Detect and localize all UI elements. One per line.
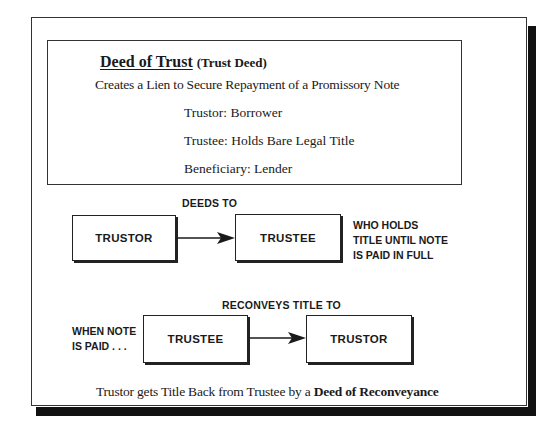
node-trustee-row2: TRUSTEE	[143, 315, 248, 363]
edge-label-reconveys-title-to: RECONVEYS TITLE TO	[222, 299, 341, 311]
arrow-right-icon	[177, 231, 235, 245]
note-when-note-is-paid: WHEN NOTE IS PAID . . .	[72, 324, 136, 354]
note-who-holds-title: WHO HOLDS TITLE UNTIL NOTE IS PAID IN FU…	[353, 218, 448, 263]
note-line: WHEN NOTE	[72, 324, 136, 339]
footer-emphasis: Deed of Reconveyance	[314, 384, 439, 399]
node-trustor-row2: TRUSTOR	[306, 315, 412, 363]
arrow-right-icon	[249, 331, 306, 345]
role-beneficiary: Beneficiary: Lender	[184, 161, 292, 177]
role-trustor: Trustor: Borrower	[184, 105, 282, 121]
footer-caption: Trustor gets Title Back from Trustee by …	[96, 384, 439, 400]
node-label: TRUSTEE	[168, 333, 224, 345]
note-line: IS PAID . . .	[72, 339, 136, 354]
node-label: TRUSTOR	[95, 232, 152, 244]
page-title: Deed of Trust (Trust Deed)	[100, 53, 267, 71]
role-trustee: Trustee: Holds Bare Legal Title	[184, 133, 355, 149]
node-trustor-row1: TRUSTOR	[72, 215, 176, 261]
edge-label-deeds-to: DEEDS TO	[182, 197, 237, 209]
note-line: TITLE UNTIL NOTE	[353, 233, 448, 248]
frame-shadow-bottom	[36, 407, 536, 416]
frame-shadow-right	[528, 26, 536, 416]
definition-subtitle: Creates a Lien to Secure Repayment of a …	[95, 77, 399, 93]
note-line: WHO HOLDS	[353, 218, 448, 233]
node-trustee-row1: TRUSTEE	[235, 214, 341, 261]
note-line: IS PAID IN FULL	[353, 248, 448, 263]
node-label: TRUSTEE	[260, 232, 316, 244]
title-main: Deed of Trust	[100, 53, 193, 70]
node-label: TRUSTOR	[330, 333, 387, 345]
title-parenthetical: (Trust Deed)	[197, 55, 267, 70]
footer-text: Trustor gets Title Back from Trustee by …	[96, 384, 310, 399]
